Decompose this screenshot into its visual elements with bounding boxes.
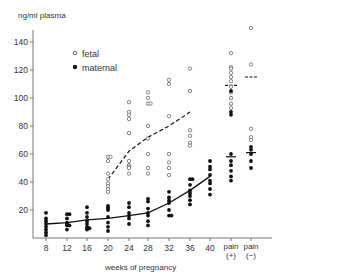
maternal-point	[106, 229, 110, 233]
maternal-point	[191, 177, 195, 181]
y-ticks: 20406080100120140	[14, 37, 33, 215]
fetal-point	[167, 82, 170, 85]
fetal-point	[146, 91, 149, 94]
fetal-point	[146, 137, 149, 140]
fetal-point	[127, 159, 130, 162]
maternal-point	[106, 215, 110, 219]
fetal-point	[249, 127, 252, 130]
maternal-point	[208, 173, 212, 177]
x-tick-label: 12	[62, 243, 72, 253]
x-tick-label: 24	[124, 243, 134, 253]
y-tick-label: 40	[19, 177, 29, 187]
chart: 20406080100120140 81216202428323640pain(…	[0, 0, 337, 276]
maternal-point	[167, 201, 171, 205]
fetal-point	[146, 152, 149, 155]
maternal-point	[208, 193, 212, 197]
fetal-point	[167, 173, 170, 176]
fetal-point	[188, 129, 191, 132]
x-tick-label: 16	[82, 243, 92, 253]
maternal-point	[229, 113, 233, 117]
fetal-point	[167, 152, 170, 155]
fetal-point	[146, 172, 149, 175]
maternal-point	[229, 163, 233, 167]
fetal-point	[249, 63, 252, 66]
maternal-point	[65, 217, 69, 221]
fetal-point	[229, 96, 232, 99]
fetal-point	[188, 67, 191, 70]
fetal-point	[127, 101, 130, 104]
maternal-point	[249, 166, 253, 170]
fetal-point	[127, 113, 130, 116]
maternal-point	[208, 159, 212, 163]
maternal-point	[146, 200, 150, 204]
maternal-point	[229, 89, 233, 93]
maternal-point	[44, 211, 48, 215]
maternal-point	[229, 175, 233, 179]
legend-maternal-marker	[73, 65, 77, 69]
maternal-point	[229, 152, 233, 156]
maternal-point	[85, 228, 89, 232]
fetal-point	[229, 52, 232, 55]
x-tick-label: 8	[44, 243, 49, 253]
fetal-point	[188, 134, 191, 137]
maternal-point	[44, 233, 48, 237]
x-tick-label-sub: (+)	[226, 251, 236, 260]
fetal-point	[127, 172, 130, 175]
legend-fetal-label: fetal	[82, 49, 99, 59]
maternal-point	[85, 215, 89, 219]
fetal-point	[167, 78, 170, 81]
y-tick-label: 120	[14, 65, 28, 75]
maternal-point	[127, 222, 131, 226]
maternal-point	[167, 190, 171, 194]
maternal-point	[229, 159, 233, 163]
x-tick-label: pain	[243, 242, 258, 251]
fetal-point	[127, 131, 130, 134]
fetal-point	[167, 166, 170, 169]
x-tick-label-sub: (−)	[246, 251, 256, 260]
fetal-point	[167, 115, 170, 118]
fetal-point	[106, 178, 109, 181]
fetal-point	[229, 71, 232, 74]
x-axis-label: weeks of pregnancy	[104, 263, 176, 272]
maternal-point	[188, 203, 192, 207]
maternal-point	[146, 214, 150, 218]
legend: fetal maternal	[73, 49, 117, 73]
x-tick-label: 20	[103, 243, 113, 253]
maternal-point	[106, 225, 110, 229]
y-tick-label: 140	[14, 37, 28, 47]
y-axis-label: ng/ml plasma	[18, 11, 66, 20]
maternal-point	[188, 183, 192, 187]
maternal-point	[146, 207, 150, 211]
fetal-point	[106, 190, 109, 193]
fetal-point	[229, 75, 232, 78]
maternal-point	[249, 152, 253, 156]
y-tick-label: 60	[19, 149, 29, 159]
maternal-point	[106, 208, 110, 212]
mean-lines	[46, 77, 257, 224]
x-tick-label: 36	[185, 243, 195, 253]
fetal-point	[188, 89, 191, 92]
maternal-point	[127, 217, 131, 221]
fetal-point	[127, 166, 130, 169]
data-points	[44, 26, 253, 237]
x-tick-label: 32	[164, 243, 174, 253]
fetal-point	[229, 80, 232, 83]
maternal-point	[167, 208, 171, 212]
fetal-point	[146, 124, 149, 127]
maternal-point	[68, 224, 72, 228]
y-tick-label: 20	[19, 205, 29, 215]
legend-fetal-marker	[73, 51, 77, 55]
maternal-point	[146, 219, 150, 223]
fetal-point	[229, 85, 232, 88]
maternal-point	[106, 221, 110, 225]
fetal-point	[229, 67, 232, 70]
maternal-point	[208, 168, 212, 172]
maternal-point	[208, 187, 212, 191]
maternal-point	[127, 205, 131, 209]
maternal-point	[170, 214, 174, 218]
fetal-point	[167, 161, 170, 164]
y-tick-label: 100	[14, 93, 28, 103]
maternal-point	[127, 201, 131, 205]
maternal-point	[85, 211, 89, 215]
fetal-point	[249, 138, 252, 141]
